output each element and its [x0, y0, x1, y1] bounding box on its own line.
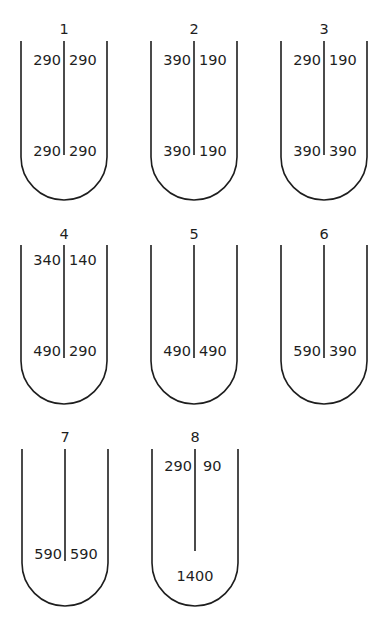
top-right-value: 190: [329, 53, 357, 68]
tube-2: 2 390 190 390 190: [150, 22, 238, 202]
bottom-left-value: 590: [34, 547, 62, 562]
tube-1: 1 290 290 290 290: [20, 22, 108, 202]
u-tube-outline: [150, 227, 238, 407]
top-left-value: 390: [163, 53, 191, 68]
top-left-value: 290: [164, 459, 192, 474]
bottom-right-value: 190: [199, 144, 227, 159]
tube-3: 3 290 190 390 390: [280, 22, 368, 202]
tube-7: 7 590 590: [21, 430, 109, 610]
bottom-right-value: 390: [329, 344, 357, 359]
bottom-right-value: 590: [70, 547, 98, 562]
bottom-left-value: 590: [293, 344, 321, 359]
u-tube-outline: [20, 22, 108, 202]
tube-8: 8 290 90 1400: [151, 430, 239, 610]
top-left-value: 290: [33, 53, 61, 68]
top-left-value: 290: [293, 53, 321, 68]
bottom-right-value: 290: [69, 144, 97, 159]
bottom-left-value: 490: [33, 344, 61, 359]
bottom-right-value: 490: [199, 344, 227, 359]
bottom-left-value: 390: [293, 144, 321, 159]
u-tube-outline: [280, 22, 368, 202]
top-right-value: 290: [69, 53, 97, 68]
bottom-left-value: 290: [33, 144, 61, 159]
top-right-value: 190: [199, 53, 227, 68]
tube-5: 5 490 490: [150, 227, 238, 407]
tube-4: 4 340 140 490 290: [20, 227, 108, 407]
tube-6: 6 590 390: [280, 227, 368, 407]
u-tube-outline: [280, 227, 368, 407]
bottom-left-value: 490: [163, 344, 191, 359]
top-right-value: 90: [203, 459, 221, 474]
top-left-value: 340: [33, 253, 61, 268]
u-tube-outline: [150, 22, 238, 202]
bottom-left-value: 390: [163, 144, 191, 159]
bottom-right-value: 390: [329, 144, 357, 159]
bottom-right-value: 290: [69, 344, 97, 359]
top-right-value: 140: [69, 253, 97, 268]
bottom-center-value: 1400: [151, 569, 239, 584]
u-tube-outline: [21, 430, 109, 610]
